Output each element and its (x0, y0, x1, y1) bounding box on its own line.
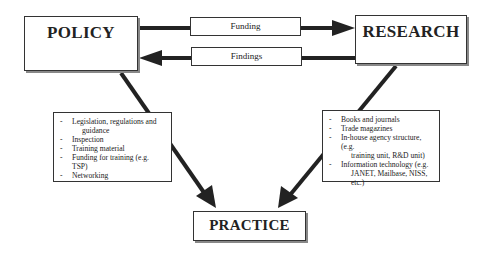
policy-title: POLICY (25, 23, 137, 43)
research-node: RESEARCH (355, 15, 467, 64)
list-item: In-house agency structure, (e.g.training… (329, 133, 433, 160)
practice-node: PRACTICE (193, 211, 306, 241)
findings-label: Findings (192, 48, 301, 65)
practice-title: PRACTICE (194, 217, 305, 234)
research-channels-box: Books and journals Trade magazines In-ho… (322, 110, 440, 182)
list-item: Funding for training (e.g. TSP) (60, 153, 165, 171)
list-item: Inspection (60, 135, 165, 144)
list-item: Networking (60, 171, 165, 180)
research-title: RESEARCH (356, 22, 466, 42)
list-item: Books and journals (329, 115, 433, 124)
research-channels-list: Books and journals Trade magazines In-ho… (323, 111, 439, 187)
policy-node: POLICY (24, 16, 138, 71)
list-item: Information technology (e.g.JANET, Mailb… (329, 160, 433, 187)
funding-label: Funding (191, 18, 300, 35)
list-item: Legislation, regulations andguidance (60, 117, 165, 135)
list-item: Training material (60, 144, 165, 153)
funding-label-box: Funding (190, 17, 301, 36)
policy-channels-box: Legislation, regulations andguidance Ins… (53, 112, 172, 182)
findings-label-box: Findings (191, 47, 302, 66)
policy-channels-list: Legislation, regulations andguidance Ins… (54, 113, 171, 180)
list-item: Trade magazines (329, 124, 433, 133)
